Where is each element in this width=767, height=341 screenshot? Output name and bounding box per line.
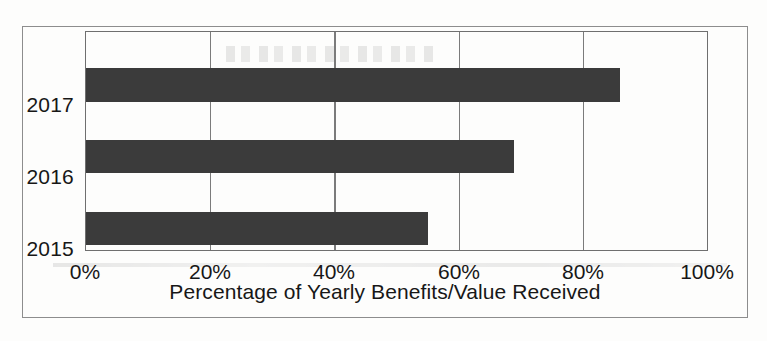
x-axis-tick-100: 100% (680, 261, 734, 282)
x-axis-tick-80: 80% (562, 261, 604, 282)
x-axis-tick-40: 40% (313, 261, 355, 282)
bar-2015 (86, 212, 428, 245)
x-axis-tick-0: 0% (70, 261, 100, 282)
gridline-80pct (583, 32, 584, 250)
y-axis-tick-2016: 2016 (26, 166, 74, 187)
bar-2016 (86, 140, 514, 173)
x-axis-tick-60: 60% (438, 261, 480, 282)
y-axis-tick-2015: 2015 (26, 238, 74, 259)
plot-area (85, 31, 708, 251)
scan-bleedthrough-artifact (226, 46, 436, 62)
scanned-page-background: 2017 2016 2015 0% 20% 40% 60% 80% 100% P… (0, 0, 767, 341)
x-axis-tick-20: 20% (189, 261, 231, 282)
bar-2017 (86, 68, 620, 102)
figure-frame: 2017 2016 2015 0% 20% 40% 60% 80% 100% P… (22, 26, 748, 318)
x-axis-title: Percentage of Yearly Benefits/Value Rece… (23, 280, 747, 304)
y-axis-tick-2017: 2017 (26, 94, 74, 115)
scan-smudge-artifact (53, 263, 727, 267)
